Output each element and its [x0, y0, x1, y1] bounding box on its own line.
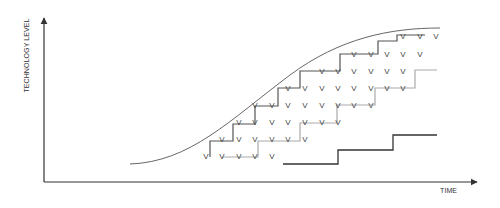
v-marker: V [269, 102, 274, 110]
v-marker: V [269, 119, 274, 127]
v-marker: V [219, 153, 224, 161]
v-marker: V [252, 153, 257, 161]
v-marker: V [302, 119, 307, 127]
v-marker: V [285, 119, 290, 127]
v-marker: V [351, 68, 356, 76]
v-marker: V [351, 102, 356, 110]
v-marker: V [252, 119, 257, 127]
v-marker: V [269, 153, 274, 161]
v-marker: V [319, 68, 324, 76]
v-marker: V [368, 85, 373, 93]
v-marker: V [319, 85, 324, 93]
v-marker: V [335, 85, 340, 93]
v-marker: V [335, 119, 340, 127]
v-marker: V [400, 33, 405, 41]
v-marker: V [285, 85, 290, 93]
v-marker: V [417, 51, 422, 59]
v-marker: V [400, 85, 405, 93]
v-marker: V [203, 153, 208, 161]
technology-diagram [0, 0, 500, 208]
v-marker: V [400, 51, 405, 59]
v-marker: V [319, 102, 324, 110]
v-marker: V [384, 51, 389, 59]
v-marker: V [219, 136, 224, 144]
v-marker: V [433, 33, 438, 41]
v-marker: V [351, 51, 356, 59]
v-marker: V [252, 136, 257, 144]
v-marker: V [269, 136, 274, 144]
v-marker: V [252, 102, 257, 110]
v-marker: V [302, 102, 307, 110]
v-marker: V [236, 119, 241, 127]
v-marker: V [302, 136, 307, 144]
v-marker: V [417, 33, 422, 41]
y-axis-label: TECHNOLOGY LEVEL [23, 16, 30, 96]
v-marker: V [400, 68, 405, 76]
v-marker: V [368, 68, 373, 76]
v-marker: V [368, 51, 373, 59]
v-marker: V [384, 68, 389, 76]
x-axis-label: TIME [440, 187, 457, 194]
v-marker: V [319, 119, 324, 127]
v-marker: V [302, 85, 307, 93]
v-marker: V [351, 85, 356, 93]
v-marker: V [335, 102, 340, 110]
v-marker: V [285, 102, 290, 110]
v-marker: V [384, 85, 389, 93]
v-marker: V [335, 68, 340, 76]
v-marker: V [236, 136, 241, 144]
v-marker: V [285, 136, 290, 144]
v-marker: V [368, 102, 373, 110]
v-marker: V [236, 153, 241, 161]
